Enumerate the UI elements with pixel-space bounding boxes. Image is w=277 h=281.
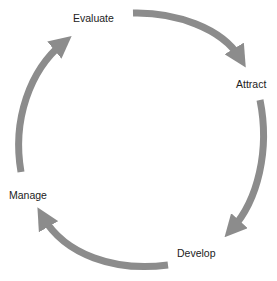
arrow-attract-to-develop-icon (232, 100, 264, 229)
arrow-manage-to-evaluate-icon (19, 43, 63, 172)
arrow-develop-to-manage-icon (43, 217, 168, 267)
stage-label-evaluate: Evaluate (73, 13, 114, 24)
stage-label-attract: Attract (236, 79, 266, 90)
cycle-arrows (0, 0, 277, 281)
stage-label-develop: Develop (177, 248, 216, 259)
arrow-evaluate-to-attract-icon (133, 13, 240, 58)
stage-label-manage: Manage (9, 190, 47, 201)
cycle-diagram: Evaluate Attract Develop Manage (0, 0, 277, 281)
